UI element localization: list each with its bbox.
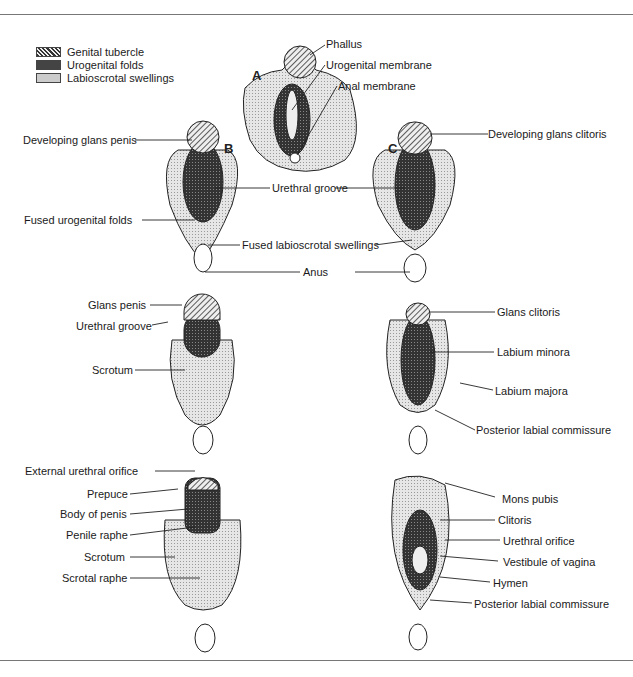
label-scrotal-raphe: Scrotal raphe (62, 572, 127, 584)
legend: Genital tubercle Urogenital folds Labios… (36, 45, 174, 84)
label-scrotum: Scrotum (92, 364, 133, 376)
label-prepuce: Prepuce (87, 488, 128, 500)
label-external-urethral-orifice: External urethral orifice (25, 465, 138, 477)
label-scrotum-2: Scrotum (84, 551, 125, 563)
label-body-of-penis: Body of penis (60, 508, 127, 520)
label-posterior-labial-commissure-2: Posterior labial commissure (474, 598, 609, 610)
legend-item-labioscrotal-swellings: Labioscrotal swellings (36, 71, 174, 84)
label-glans-penis: Glans penis (88, 299, 146, 311)
legend-item-urogenital-folds: Urogenital folds (36, 58, 174, 71)
hatch-swatch-icon (36, 47, 61, 57)
label-urethral-groove-male: Urethral groove (76, 320, 152, 332)
label-fused-urogenital-folds: Fused urogenital folds (24, 214, 132, 226)
label-vestibule-of-vagina: Vestibule of vagina (503, 556, 595, 568)
light-swatch-icon (36, 73, 61, 83)
panel-label-a: A (252, 68, 261, 83)
panel-label-b: B (224, 141, 233, 156)
legend-item-genital-tubercle: Genital tubercle (36, 45, 174, 58)
figure-female-2 (387, 303, 449, 454)
label-phallus: Phallus (326, 38, 362, 50)
figure-female-3 (392, 476, 449, 650)
label-developing-glans-clitoris: Developing glans clitoris (488, 128, 607, 140)
label-penile-raphe: Penile raphe (66, 529, 128, 541)
label-developing-glans-penis: Developing glans penis (23, 134, 137, 146)
label-fused-labioscrotal-swellings: Fused labioscrotal swellings (242, 239, 379, 251)
label-labium-minora: Labium minora (497, 346, 570, 358)
figure-c (373, 122, 455, 282)
label-anal-membrane: Anal membrane (338, 80, 416, 92)
label-clitoris: Clitoris (498, 514, 532, 526)
panel-label-c: C (388, 141, 397, 156)
label-urethral-orifice: Urethral orifice (503, 535, 575, 547)
label-anus: Anus (303, 266, 328, 278)
label-labium-majora: Labium majora (495, 385, 568, 397)
dark-swatch-icon (36, 60, 61, 70)
label-urethral-groove: Urethral groove (272, 182, 348, 194)
label-glans-clitoris: Glans clitoris (497, 306, 560, 318)
figure-male-3 (164, 478, 241, 653)
label-urogenital-membrane: Urogenital membrane (326, 59, 432, 71)
label-mons-pubis: Mons pubis (502, 493, 558, 505)
figure-male-2 (170, 294, 234, 454)
label-posterior-labial-commissure: Posterior labial commissure (476, 424, 611, 436)
label-hymen: Hymen (493, 577, 528, 589)
